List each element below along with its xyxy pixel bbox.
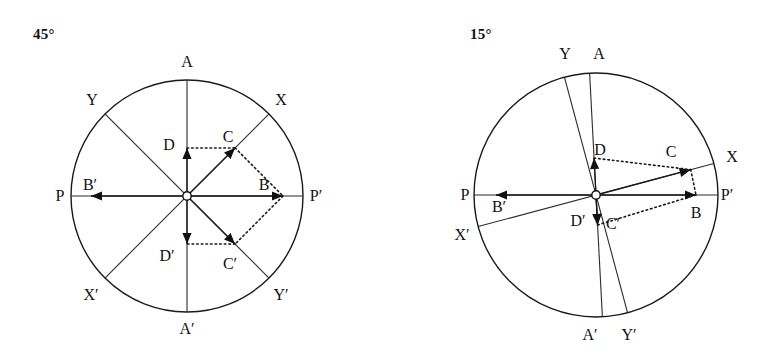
vector-diagram-15: AA′PP′XX′YY′BB′CC′DD′ <box>385 0 769 361</box>
axis-label-Y: Y <box>559 45 571 62</box>
vector-C <box>596 170 691 195</box>
axis-label-Dp: D′ <box>159 247 174 264</box>
axis-label-B: B <box>691 204 702 221</box>
link-D-C <box>594 158 691 170</box>
axis-label-X: X <box>726 148 738 165</box>
origin-dot <box>183 192 191 200</box>
vector-diagram-45: AA′PP′XX′YY′BB′CC′DD′ <box>0 0 385 361</box>
axis-label-B: B <box>259 176 270 193</box>
axis-label-D: D <box>163 136 175 153</box>
diagram-panel-15: 15° AA′PP′XX′YY′BB′CC′DD′ <box>385 0 769 361</box>
axis-label-Xp: X′ <box>454 226 469 243</box>
axis-label-Pp: P′ <box>721 186 733 203</box>
axis-label-X: X <box>275 91 287 108</box>
axis-label-Ap: A′ <box>179 320 194 337</box>
vector-D-arrowhead <box>590 158 599 169</box>
axis-label-Cp: C′ <box>606 215 620 232</box>
figure-root: 45° AA′PP′XX′YY′BB′CC′DD′ 15° AA′PP′XX′Y… <box>0 0 769 361</box>
axis-label-Cp: C′ <box>223 255 237 272</box>
vector-Dp-arrowhead <box>182 233 191 244</box>
axis-label-Xp: X′ <box>83 286 98 303</box>
axis-label-Ap: A′ <box>582 326 597 343</box>
axis-label-D: D <box>594 141 606 158</box>
link-C-B <box>691 170 696 195</box>
axis-label-Yp: Y′ <box>273 286 288 303</box>
origin-dot <box>592 191 600 199</box>
axis-label-A: A <box>181 53 193 70</box>
axis-label-P: P <box>461 186 470 203</box>
vector-B-arrowhead <box>272 191 283 200</box>
vector-Dp-arrowhead <box>592 214 601 225</box>
axis-label-Y: Y <box>86 91 98 108</box>
axis-label-Yp: Y′ <box>621 326 636 343</box>
axis-label-Bp: B′ <box>492 198 506 215</box>
axis-label-C: C <box>223 128 234 145</box>
diagram-panel-45: 45° AA′PP′XX′YY′BB′CC′DD′ <box>0 0 385 361</box>
axis-label-Pp: P′ <box>310 187 322 204</box>
link-B-Cp <box>235 196 283 244</box>
axis-label-Bp: B′ <box>83 176 97 193</box>
axis-label-C: C <box>666 143 677 160</box>
vector-Bp-arrowhead <box>91 191 102 200</box>
axis-label-P: P <box>56 187 65 204</box>
axis-label-A: A <box>593 45 605 62</box>
vector-D-arrowhead <box>182 148 191 159</box>
axis-label-Dp: D′ <box>570 212 585 229</box>
